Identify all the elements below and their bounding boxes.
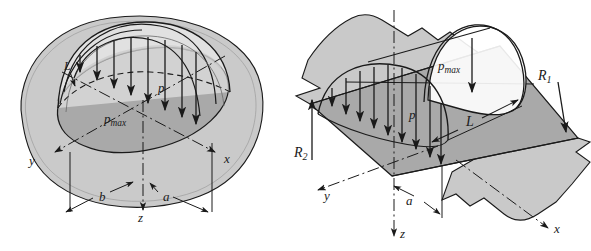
label-right-R2: R2 [293,145,308,162]
label-left-y-axis: y [27,153,35,168]
right-panel-svg: pmax p L R1 R2 y a x z [290,0,591,251]
label-right-L: L [465,114,474,129]
label-right-x-axis: x [553,221,560,236]
figure-root: pmax p L y x b a z [0,0,591,251]
label-right-y-axis: y [322,188,330,203]
label-right-z-axis: z [399,226,405,241]
label-left-x-axis: x [223,151,230,166]
label-right-R1: R1 [537,68,552,85]
label-left-L: L [63,59,71,73]
label-left-b: b [99,189,106,204]
label-right-a: a [406,193,413,208]
left-panel-svg: pmax p L y x b a z [0,0,296,251]
label-left-a: a [163,189,170,204]
label-right-p: p [408,107,416,122]
label-left-p: p [157,80,165,95]
label-left-z-axis: z [137,210,143,225]
